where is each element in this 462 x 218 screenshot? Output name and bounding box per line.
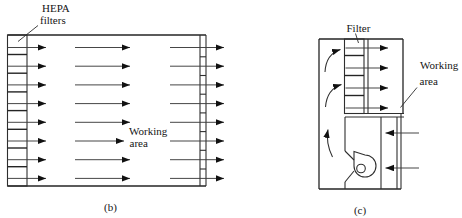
filter-label: Filter	[347, 22, 371, 44]
working-area-line1: Working	[420, 59, 459, 71]
filter-label-pointer-line	[356, 34, 359, 44]
working-area-label-c: Working area	[401, 59, 459, 108]
working-area-line2: area	[130, 137, 148, 149]
blower-fan-icon	[345, 117, 376, 189]
working-area-label-b: Working area	[129, 125, 168, 150]
return-duct	[381, 114, 401, 190]
diagram-c: Filter Working area (c)	[319, 22, 459, 218]
hepa-filter-grid	[8, 35, 28, 186]
return-air-arrows	[386, 133, 420, 168]
caption-b: (b)	[104, 201, 117, 214]
airflow-arrows	[8, 48, 225, 179]
working-area-line1: Working	[129, 125, 168, 137]
working-area-line2: area	[420, 75, 438, 87]
hepa-label-pointer-line	[18, 26, 38, 42]
cleanroom-diagrams-svg: HEPA filters Working area (b)	[0, 0, 462, 217]
hepa-label-line1: HEPA	[42, 2, 70, 14]
hepa-label-line2: filters	[40, 14, 66, 26]
filter-label-text: Filter	[347, 22, 371, 34]
diagram-b: HEPA filters Working area (b)	[8, 2, 225, 215]
recirculation-arrows	[325, 50, 342, 158]
filter-outflow-arrows	[346, 48, 389, 108]
filter-grid	[345, 39, 369, 114]
exhaust-grille	[200, 35, 206, 186]
caption-c: (c)	[354, 204, 367, 217]
cleanroom-airflow-figure: HEPA filters Working area (b)	[0, 0, 462, 217]
